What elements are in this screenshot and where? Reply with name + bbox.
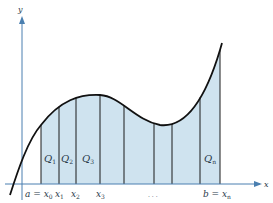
y-axis-arrow-icon bbox=[19, 16, 25, 24]
tick-label-b-xn: b = xn bbox=[203, 189, 231, 200]
tick-label-x1: x1 bbox=[55, 189, 64, 200]
tick-label-a-x0: a = x0 bbox=[25, 189, 53, 200]
x-axis-label: x bbox=[264, 180, 269, 189]
x-axis-arrow-icon bbox=[254, 181, 262, 187]
riemann-partition-diagram: y x Q1 Q2 Q3 Qn a = x0 x1 x2 x3 . . . b … bbox=[0, 0, 273, 203]
y-axis-label: y bbox=[17, 5, 23, 14]
tick-label-x3: x3 bbox=[96, 189, 105, 200]
tick-label-x2: x2 bbox=[71, 189, 80, 200]
ellipsis: . . . bbox=[148, 191, 158, 198]
